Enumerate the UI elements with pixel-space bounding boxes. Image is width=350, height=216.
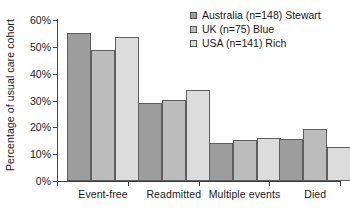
bar <box>186 90 210 182</box>
bar <box>257 138 281 181</box>
bar <box>67 33 91 181</box>
legend-item-label: USA (n=141) Rich <box>202 38 286 49</box>
legend-item-label: UK (n=75) Blue <box>202 24 274 35</box>
bar <box>115 37 139 181</box>
legend-item: UK (n=75) Blue <box>190 23 321 36</box>
y-axis-tick-mark <box>53 74 57 75</box>
x-axis-tick-mark <box>199 181 200 186</box>
x-axis-category-label: Readmitted <box>146 188 201 200</box>
legend: Australia (n=148) StewartUK (n=75) BlueU… <box>190 9 321 51</box>
bar <box>91 50 115 181</box>
y-axis-tick-label: 30% <box>30 95 51 106</box>
legend-item: Australia (n=148) Stewart <box>190 9 321 22</box>
x-axis-category-label: Event-free <box>78 188 127 200</box>
legend-item-label: Australia (n=148) Stewart <box>202 10 321 21</box>
bar <box>327 147 350 181</box>
legend-swatch-icon <box>190 40 197 47</box>
bar <box>209 143 233 181</box>
y-axis-tick-mark <box>53 127 57 128</box>
x-axis-tick-mark <box>128 181 129 186</box>
bar <box>233 140 257 181</box>
y-axis-tick-mark <box>53 20 57 21</box>
legend-swatch-icon <box>190 12 197 19</box>
x-axis-tick-mark <box>340 181 341 186</box>
y-axis-tick-mark <box>53 47 57 48</box>
y-axis-tick-label: 60% <box>30 15 51 26</box>
bar <box>138 103 162 181</box>
y-axis-tick-label: 10% <box>30 149 51 160</box>
x-axis-tick-mark <box>269 181 270 186</box>
y-axis-tick-label: 0% <box>36 176 51 187</box>
bar <box>279 139 303 181</box>
legend-swatch-icon <box>190 26 197 33</box>
x-axis-tick-mark <box>57 181 58 186</box>
y-axis-title: Percentage of usual care cohort <box>2 2 18 188</box>
x-axis-category-label: Died <box>304 188 326 200</box>
bar <box>303 129 327 181</box>
bar-chart: Percentage of usual care cohort 0%10%20%… <box>0 0 350 216</box>
bar <box>162 100 186 181</box>
x-axis-category-label: Multiple events <box>209 188 281 200</box>
y-axis-tick-label: 50% <box>30 42 51 53</box>
y-axis-tick-label: 40% <box>30 68 51 79</box>
y-axis-tick-mark <box>53 154 57 155</box>
y-axis-tick-mark <box>53 101 57 102</box>
legend-item: USA (n=141) Rich <box>190 37 321 50</box>
y-axis-tick-label: 20% <box>30 122 51 133</box>
